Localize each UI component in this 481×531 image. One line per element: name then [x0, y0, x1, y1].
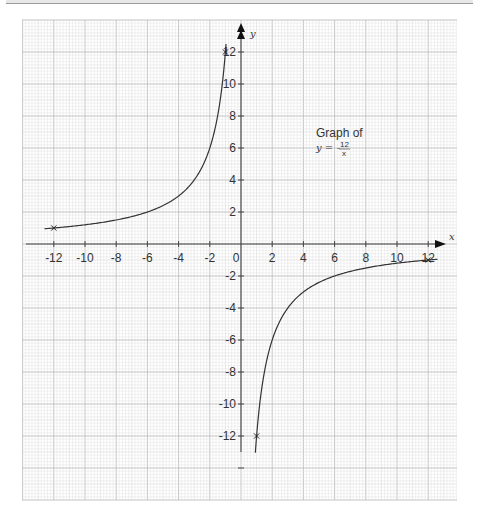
x-tick-label: -10 — [76, 251, 94, 265]
x-tick-label: 2 — [269, 251, 276, 265]
y-tick-label: -10 — [219, 397, 237, 411]
equation-denominator: x — [342, 149, 346, 158]
y-tick-label: 4 — [229, 173, 236, 187]
x-tick-label: -6 — [142, 251, 153, 265]
axes — [26, 23, 446, 468]
chart-title: Graph of — [316, 126, 363, 140]
y-tick-label: 6 — [229, 141, 236, 155]
x-tick-label: 4 — [300, 251, 307, 265]
equation-numerator: 12 — [340, 140, 349, 149]
x-tick-label: 6 — [331, 251, 338, 265]
equation-lhs: y = - — [315, 142, 340, 153]
x-tick-label: 12 — [422, 251, 436, 265]
hyperbola-branch — [44, 44, 226, 229]
y-axis-label: y — [249, 28, 256, 39]
y-tick-label: 8 — [229, 109, 236, 123]
y-tick-label: -8 — [225, 365, 236, 379]
x-tick-label: 8 — [362, 251, 369, 265]
x-axis-label: x — [449, 231, 455, 242]
y-tick-label: 10 — [223, 77, 237, 91]
hyperbola-chart: -12-10-8-6-4-202468101212108642-2-4-6-8-… — [0, 0, 481, 531]
y-tick-label: 2 — [229, 205, 236, 219]
y-tick-label: -6 — [225, 333, 236, 347]
x-tick-label: -4 — [173, 251, 184, 265]
y-tick-label: -12 — [219, 429, 237, 443]
y-tick-label: -2 — [225, 269, 236, 283]
x-tick-label: -2 — [204, 251, 215, 265]
x-tick-label: 0 — [233, 251, 240, 265]
y-tick-label: -4 — [225, 301, 236, 315]
x-tick-label: -8 — [111, 251, 122, 265]
x-tick-label: -12 — [45, 251, 63, 265]
